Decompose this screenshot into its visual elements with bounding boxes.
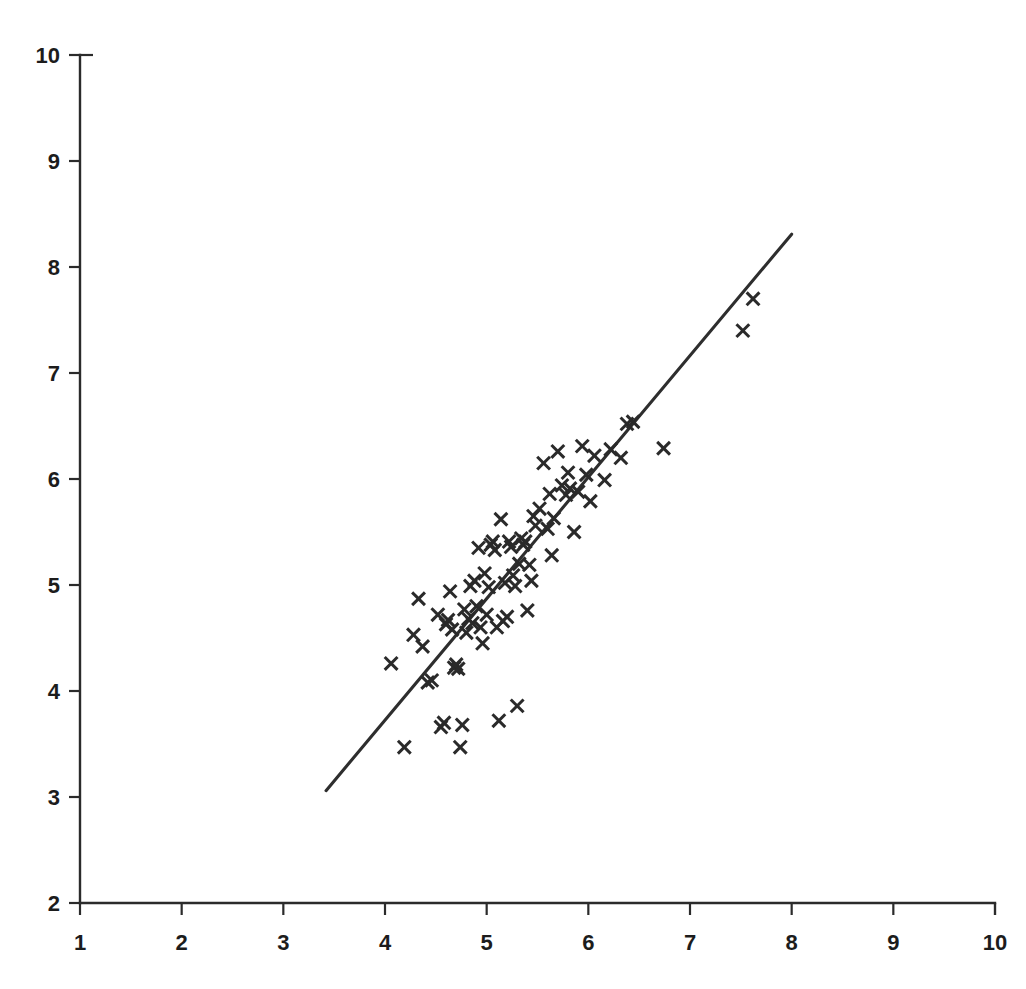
data-point <box>568 526 581 539</box>
data-point <box>407 628 420 641</box>
data-point <box>492 714 505 727</box>
data-point <box>551 445 564 458</box>
x-tick-label: 6 <box>582 930 594 955</box>
data-point <box>537 457 550 470</box>
data-point <box>614 451 627 464</box>
data-point <box>523 558 536 571</box>
data-point <box>412 592 425 605</box>
y-tick-label: 3 <box>48 785 60 810</box>
x-tick-label: 10 <box>983 930 1007 955</box>
data-point <box>545 549 558 562</box>
data-point <box>533 502 546 515</box>
data-point <box>454 741 467 754</box>
x-tick-label: 9 <box>887 930 899 955</box>
y-tick-label: 4 <box>48 679 61 704</box>
data-point <box>468 574 481 587</box>
data-point <box>495 513 508 526</box>
data-point <box>501 610 514 623</box>
x-axis <box>80 903 995 915</box>
data-point <box>562 466 575 479</box>
x-tick-label: 7 <box>684 930 696 955</box>
data-point <box>543 487 556 500</box>
x-tick-label: 5 <box>481 930 493 955</box>
y-tick-label: 6 <box>48 467 60 492</box>
x-tick-label: 4 <box>379 930 392 955</box>
x-tick-label: 8 <box>786 930 798 955</box>
data-point <box>385 657 398 670</box>
data-point <box>521 604 534 617</box>
data-point <box>509 580 522 593</box>
data-point <box>456 719 469 732</box>
data-point <box>588 449 601 462</box>
data-point <box>472 542 485 555</box>
data-point <box>736 324 749 337</box>
data-point <box>482 581 495 594</box>
data-point <box>444 585 457 598</box>
y-tick-label: 8 <box>48 255 60 280</box>
data-point <box>525 574 538 587</box>
data-point <box>576 440 589 453</box>
data-point <box>438 716 451 729</box>
data-point <box>416 640 429 653</box>
x-tick-label: 1 <box>74 930 86 955</box>
data-point <box>511 699 524 712</box>
x-axis-tick-labels: 12345678910 <box>74 930 1007 955</box>
y-tick-label: 9 <box>48 149 60 174</box>
y-tick-label: 2 <box>48 891 60 916</box>
y-tick-label: 7 <box>48 361 60 386</box>
data-point-markers <box>385 292 760 753</box>
data-point <box>476 637 489 650</box>
data-point <box>478 567 491 580</box>
scatter-plot-figure: 2345678910 12345678910 <box>0 0 1026 989</box>
y-tick-label: 10 <box>36 43 60 68</box>
data-point <box>747 292 760 305</box>
data-point <box>598 474 611 487</box>
data-point <box>657 442 670 455</box>
y-axis-tick-labels: 2345678910 <box>36 43 61 916</box>
y-axis <box>69 55 93 903</box>
data-point <box>398 741 411 754</box>
chart-canvas: 2345678910 12345678910 <box>0 0 1026 989</box>
x-tick-label: 3 <box>277 930 289 955</box>
x-tick-label: 2 <box>176 930 188 955</box>
data-point <box>529 519 542 532</box>
data-point <box>584 495 597 508</box>
data-point <box>480 608 493 621</box>
y-tick-label: 5 <box>48 573 60 598</box>
